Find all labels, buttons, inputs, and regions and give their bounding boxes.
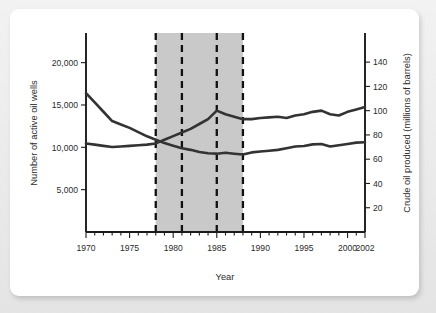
x-tick-label-1970: 1970 [76, 243, 95, 253]
line-chart: 19701975198019851990199520002002 5,00010… [10, 9, 419, 296]
right-tick-label-100: 100 [373, 106, 388, 116]
right-tick-label-120: 120 [373, 82, 388, 92]
right-tick-label-140: 140 [373, 57, 388, 67]
x-tick-label-1995: 1995 [294, 243, 313, 253]
x-tick-label-1990: 1990 [251, 243, 270, 253]
right-tick-label-20: 20 [373, 203, 383, 213]
x-tick-label-1975: 1975 [120, 243, 139, 253]
left-tick-label-10000: 10,000 [52, 143, 79, 153]
x-tick-labels: 19701975198019851990199520002002 [76, 243, 374, 253]
figure-root: 19701975198019851990199520002002 5,00010… [0, 0, 436, 313]
x-tick-label-2000: 2000 [338, 243, 357, 253]
x-axis-title: Year [216, 272, 235, 282]
y-axis-title-left: Number of active oil wells [29, 80, 39, 186]
y-axis-title-right: Crude oil produced (millions of barrels) [402, 53, 412, 213]
x-tick-label-2002: 2002 [355, 243, 374, 253]
right-tick-labels: 20406080100120140 [373, 57, 388, 213]
x-tick-label-1985: 1985 [207, 243, 226, 253]
left-tick-label-20000: 20,000 [52, 58, 79, 68]
left-tick-label-5000: 5,000 [56, 185, 78, 195]
shaded-band-region [156, 33, 243, 232]
x-tick-label-1980: 1980 [164, 243, 183, 253]
left-tick-labels: 5,00010,00015,00020,000 [52, 58, 79, 195]
right-tick-label-60: 60 [373, 154, 383, 164]
right-tick-label-80: 80 [373, 130, 383, 140]
chart-panel: 19701975198019851990199520002002 5,00010… [10, 9, 419, 296]
right-tick-label-40: 40 [373, 179, 383, 189]
left-tick-label-15000: 15,000 [52, 100, 79, 110]
